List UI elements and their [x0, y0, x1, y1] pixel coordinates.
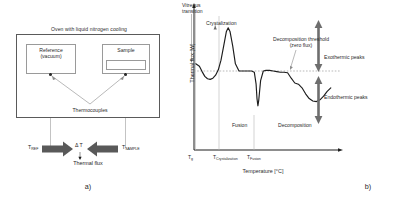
decomposition-threshold-arrowhead	[290, 66, 293, 70]
thermal-flux-arrow-right	[42, 142, 73, 157]
annotation-vitreous-transition: Vitreous transition	[182, 2, 203, 14]
t-ref-subscript: REF	[31, 147, 38, 151]
thermocouples-label: Thermocouples	[42, 107, 138, 113]
t-sample-label: TSAMPLE	[122, 144, 140, 150]
annotation-fusion: Fusion	[232, 122, 247, 128]
t-sample-subscript: SAMPLE	[125, 147, 140, 151]
delta-t-label: Δ T	[75, 142, 83, 148]
vitreous-line2: transition	[182, 8, 203, 14]
thermal-flux-arrow-left	[87, 142, 118, 157]
endothermic-range-arrow	[315, 76, 323, 124]
x-axis-label: Temperature [°C]	[188, 168, 338, 174]
y-axis-label: Thermal flux [W]	[189, 27, 195, 99]
tg-subscript: g	[191, 157, 193, 161]
panel-a-caption: a)	[60, 182, 116, 191]
thermocouple-leader-lines	[51, 75, 126, 104]
annotation-decomposition: Decomposition	[278, 122, 312, 128]
panel-a-lines	[0, 0, 180, 203]
tf-subscript: Fusion	[250, 157, 261, 161]
panel-b-dsc-chart: Thermal flux [W] Temperature [°C] Vitreo…	[180, 0, 416, 203]
decomposition-threshold-leader	[291, 50, 297, 68]
annotation-endothermic-peaks: Endothermic peaks	[324, 94, 368, 100]
annotation-decomposition-threshold: Decomposition threshold (zero flux)	[256, 36, 346, 48]
annotation-exothermic-peaks: Exothermic peaks	[324, 54, 364, 60]
t-ref-label: TREF	[28, 144, 38, 150]
tc-subscript: Crystalization	[216, 157, 238, 161]
annotation-crystalization: Crystalization	[206, 20, 237, 26]
x-tick-label-tg: Tg	[188, 154, 193, 160]
thermocouple-arrowhead-right	[120, 76, 124, 80]
decomposition-threshold-line2: (zero flux)	[256, 42, 346, 48]
x-axis-arrowhead	[338, 148, 343, 152]
panel-a-apparatus-schematic: Oven with liquid nitrogen cooling Refere…	[0, 0, 180, 203]
thermal-flux-label: Thermal flux	[38, 160, 138, 166]
x-tick-label-tfusion: TFusion	[247, 154, 261, 160]
thermocouple-arrowhead-left	[52, 76, 56, 80]
panel-b-caption: b)	[348, 182, 388, 191]
x-tick-label-tcrystalization: TCrystalization	[213, 154, 238, 160]
